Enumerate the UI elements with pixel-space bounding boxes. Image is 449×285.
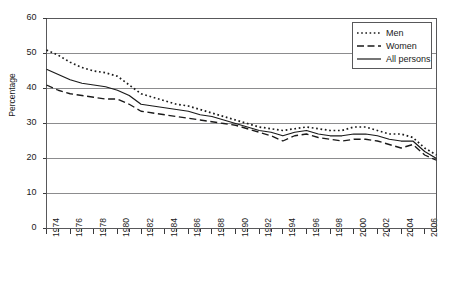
legend-label-men: Men (386, 28, 404, 38)
legend-item-women: Women (356, 39, 427, 52)
legend-swatch-dashed (356, 41, 382, 51)
legend-label-women: Women (386, 41, 417, 51)
chart-legend: Men Women All persons (352, 22, 432, 69)
legend-label-all-persons: All persons (386, 54, 431, 64)
series-line-all-persons (47, 69, 437, 158)
legend-swatch-solid (356, 54, 382, 64)
series-line-women (47, 85, 437, 160)
legend-item-men: Men (356, 26, 427, 39)
legend-item-all-persons: All persons (356, 52, 427, 65)
line-chart: Percentage 0102030405060 197419761978198… (0, 0, 449, 285)
legend-swatch-dotted (356, 28, 382, 38)
